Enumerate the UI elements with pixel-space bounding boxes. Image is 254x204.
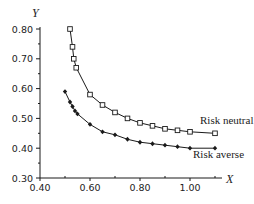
data-point-diamond xyxy=(163,143,167,148)
data-point-square xyxy=(188,130,193,135)
data-point-square xyxy=(74,65,79,70)
series-label-risk-averse: Risk averse xyxy=(193,148,244,160)
data-point-diamond xyxy=(188,146,192,151)
chart: 0.300.400.500.600.700.800.400.600.801.00… xyxy=(0,0,254,204)
x-axis-title: X xyxy=(225,172,234,186)
y-tick-label: 0.40 xyxy=(12,143,33,154)
data-point-square xyxy=(70,45,75,50)
x-tick-label: 1.00 xyxy=(179,182,200,193)
x-tick-label: 0.80 xyxy=(129,182,150,193)
data-point-diamond xyxy=(150,141,154,146)
data-point-square xyxy=(138,121,143,126)
data-point-diamond xyxy=(138,140,142,145)
data-point-square xyxy=(88,92,93,97)
y-tick-label: 0.70 xyxy=(12,53,33,64)
axes: 0.300.400.500.600.700.800.400.600.801.00 xyxy=(12,24,222,194)
data-point-diamond xyxy=(68,100,72,105)
series-line-risk-averse xyxy=(65,92,215,149)
data-point-diamond xyxy=(125,137,129,142)
data-point-square xyxy=(71,57,76,62)
data-point-square xyxy=(175,128,180,133)
data-point-square xyxy=(150,124,155,129)
y-tick-label: 0.60 xyxy=(12,83,33,94)
series-group xyxy=(63,27,218,151)
data-point-square xyxy=(113,110,118,115)
data-point-square xyxy=(163,127,168,132)
data-point-square xyxy=(213,131,218,136)
series-label-risk-neutral: Risk neutral xyxy=(200,114,253,126)
series-line-risk-neutral xyxy=(70,29,215,133)
x-tick-label: 0.60 xyxy=(79,182,100,193)
data-point-diamond xyxy=(100,129,104,134)
data-point-diamond xyxy=(175,144,179,149)
x-tick-label: 0.40 xyxy=(29,182,50,193)
data-point-diamond xyxy=(113,132,117,137)
data-point-diamond xyxy=(63,89,67,94)
data-point-square xyxy=(68,27,73,32)
data-point-square xyxy=(125,116,130,121)
y-axis-title: Y xyxy=(32,6,40,20)
y-tick-label: 0.80 xyxy=(12,24,33,35)
data-point-diamond xyxy=(70,104,74,109)
y-tick-label: 0.50 xyxy=(12,113,33,124)
data-point-square xyxy=(100,103,105,108)
